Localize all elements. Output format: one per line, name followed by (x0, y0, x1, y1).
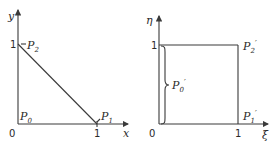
point-p1-prime-label: P1′ (242, 108, 257, 125)
point-p0-label: P0 (19, 110, 32, 125)
left-panel-triangle: y x 0 1 1 P2 P0 P1 (7, 10, 130, 140)
p0-prime-brace (161, 46, 169, 124)
point-p2-label: P2 (21, 39, 39, 54)
svg-text:P1′: P1′ (242, 108, 257, 125)
triangle-hypotenuse (18, 44, 97, 124)
right-xi-axis-label: ξ (262, 129, 269, 142)
svg-text:P1: P1 (100, 110, 113, 125)
svg-text:P2′: P2′ (242, 38, 257, 55)
right-origin-label: 0 (149, 128, 155, 139)
left-y-axis-label: y (7, 10, 15, 23)
right-xi-tick-label: 1 (235, 128, 241, 139)
svg-text:P0: P0 (19, 110, 32, 125)
svg-text:P0′: P0′ (171, 77, 186, 94)
right-eta-axis-label: η (146, 14, 153, 27)
left-x-axis-label: x (123, 127, 130, 140)
left-origin-label: 0 (9, 128, 15, 139)
left-y-tick-label: 1 (10, 39, 16, 50)
point-p1-label: P1 (97, 110, 113, 125)
diagram-canvas: y x 0 1 1 P2 P0 P1 η ξ 0 1 1 P0′ (0, 0, 278, 151)
point-p2-prime-label: P2′ (242, 38, 257, 55)
right-eta-tick-label: 1 (151, 40, 157, 51)
point-p0-prime-label: P0′ (171, 77, 186, 94)
left-x-tick-label: 1 (94, 128, 100, 139)
svg-text:P2: P2 (26, 39, 39, 54)
right-panel-square: η ξ 0 1 1 P0′ P2′ P1′ (146, 14, 269, 142)
